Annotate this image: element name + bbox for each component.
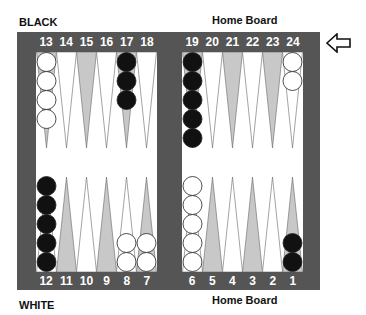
- point-number: 20: [202, 35, 222, 49]
- point-number: 15: [76, 35, 96, 49]
- top-left-point-numbers: 13 14 15 16 17 18: [36, 35, 157, 49]
- point-number: 2: [263, 274, 283, 288]
- point-15[interactable]: [77, 52, 97, 148]
- white-checker[interactable]: [117, 234, 136, 253]
- black-checker[interactable]: [283, 253, 302, 272]
- point-21[interactable]: [223, 52, 243, 148]
- point-number: 18: [137, 35, 157, 49]
- point-number: 7: [137, 274, 157, 288]
- black-checker[interactable]: [37, 253, 56, 272]
- home-board-points[interactable]: [182, 52, 303, 272]
- white-checker[interactable]: [137, 234, 156, 253]
- point-10[interactable]: [77, 177, 97, 272]
- black-checker[interactable]: [117, 53, 136, 72]
- black-checker[interactable]: [183, 72, 202, 91]
- white-player-label: WHITE: [19, 299, 54, 311]
- black-checker[interactable]: [183, 53, 202, 72]
- point-number: 22: [243, 35, 263, 49]
- black-player-label: BLACK: [19, 16, 58, 28]
- point-number: 23: [263, 35, 283, 49]
- white-checker[interactable]: [37, 53, 56, 72]
- point-16[interactable]: [97, 52, 117, 148]
- point-number: 3: [243, 274, 263, 288]
- home-board-field: [182, 52, 303, 272]
- black-checker[interactable]: [37, 215, 56, 234]
- white-checker[interactable]: [283, 72, 302, 91]
- point-20[interactable]: [203, 52, 223, 148]
- point-number: 21: [222, 35, 242, 49]
- white-checker[interactable]: [183, 196, 202, 215]
- bottom-right-point-numbers: 6 5 4 3 2 1: [182, 274, 303, 288]
- point-5[interactable]: [203, 177, 223, 272]
- white-checker[interactable]: [183, 234, 202, 253]
- black-checker[interactable]: [117, 91, 136, 110]
- black-checker[interactable]: [37, 234, 56, 253]
- point-number: 5: [202, 274, 222, 288]
- point-number: 12: [36, 274, 56, 288]
- top-home-board-label: Home Board: [212, 14, 277, 26]
- black-checker[interactable]: [37, 196, 56, 215]
- white-checker[interactable]: [183, 215, 202, 234]
- white-checker[interactable]: [117, 253, 136, 272]
- point-number: 6: [182, 274, 202, 288]
- point-number: 8: [117, 274, 137, 288]
- outer-board-points[interactable]: [36, 52, 157, 272]
- point-14[interactable]: [57, 52, 77, 148]
- black-checker[interactable]: [183, 110, 202, 129]
- bottom-home-board-label: Home Board: [212, 294, 277, 306]
- point-number: 13: [36, 35, 56, 49]
- point-number: 4: [222, 274, 242, 288]
- white-checker[interactable]: [183, 177, 202, 196]
- point-number: 14: [56, 35, 76, 49]
- point-number: 9: [97, 274, 117, 288]
- point-number: 17: [117, 35, 137, 49]
- black-checker[interactable]: [183, 129, 202, 148]
- point-11[interactable]: [57, 177, 77, 272]
- point-9[interactable]: [97, 177, 117, 272]
- backgammon-board: 13 14 15 16 17 18 19 20 21 22 23 24 12 1…: [17, 32, 320, 290]
- point-number: 24: [283, 35, 303, 49]
- point-3[interactable]: [243, 177, 263, 272]
- point-number: 16: [97, 35, 117, 49]
- bottom-left-point-numbers: 12 11 10 9 8 7: [36, 274, 157, 288]
- black-checker[interactable]: [183, 91, 202, 110]
- white-checker[interactable]: [283, 53, 302, 72]
- outer-board-field: [36, 52, 157, 272]
- white-checker[interactable]: [137, 253, 156, 272]
- white-checker[interactable]: [183, 253, 202, 272]
- point-18[interactable]: [137, 52, 157, 148]
- top-right-point-numbers: 19 20 21 22 23 24: [182, 35, 303, 49]
- point-4[interactable]: [223, 177, 243, 272]
- black-checker[interactable]: [283, 234, 302, 253]
- white-checker[interactable]: [37, 91, 56, 110]
- black-checker[interactable]: [117, 72, 136, 91]
- point-2[interactable]: [263, 177, 283, 272]
- point-23[interactable]: [263, 52, 283, 148]
- point-number: 19: [182, 35, 202, 49]
- point-number: 11: [56, 274, 76, 288]
- point-number: 1: [283, 274, 303, 288]
- black-checker[interactable]: [37, 177, 56, 196]
- white-checker[interactable]: [37, 110, 56, 129]
- left-arrow-icon: [326, 33, 352, 57]
- bar[interactable]: [157, 52, 182, 272]
- point-number: 10: [76, 274, 96, 288]
- point-22[interactable]: [243, 52, 263, 148]
- white-checker[interactable]: [37, 72, 56, 91]
